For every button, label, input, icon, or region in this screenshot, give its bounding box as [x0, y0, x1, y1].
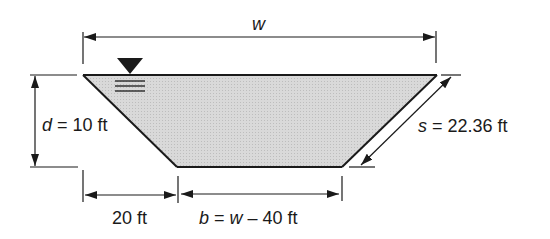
top-width-label: w [252, 14, 266, 34]
depth-label: d = 10 ft [42, 115, 108, 135]
bottom-dimensions [83, 170, 342, 203]
offset-label: 20 ft [112, 208, 147, 228]
channel-diagram: w d = 10 ft s = 22.36 ft 20 ft b = w – 4… [0, 0, 550, 239]
side-length-label: s = 22.36 ft [418, 116, 508, 136]
bottom-width-label: b = w – 40 ft [199, 208, 298, 228]
channel-water-area [83, 75, 437, 167]
